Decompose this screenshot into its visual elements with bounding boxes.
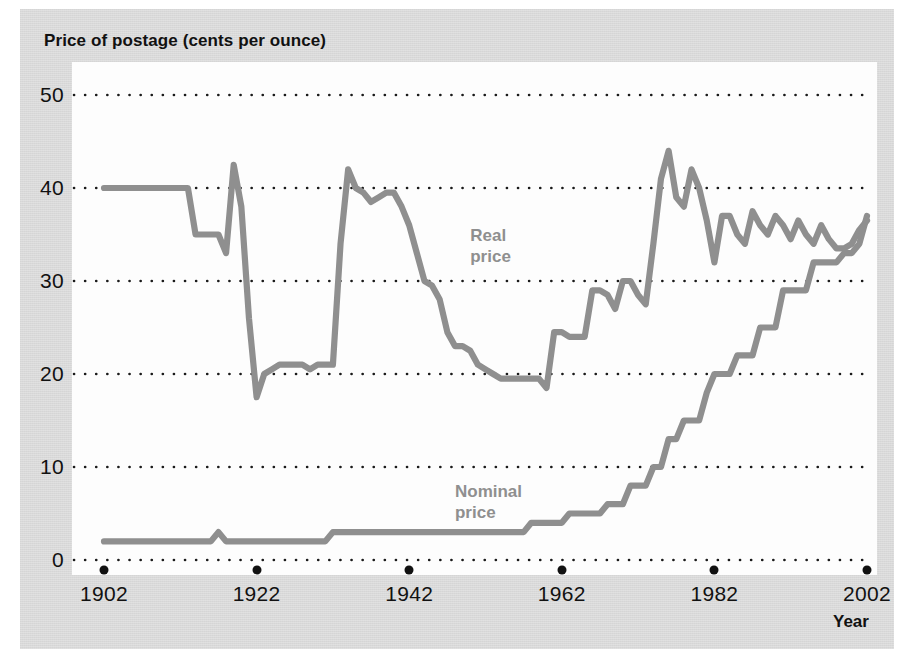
chart-title: Price of postage (cents per ounce) [44, 31, 326, 51]
annotation-line: Nominal [455, 481, 522, 502]
chart-figure: Price of postage (cents per ounce) Realp… [20, 9, 894, 649]
x-axis-title: Year [833, 612, 869, 632]
annotation-line: price [470, 246, 511, 267]
y-tick-label: 30 [20, 269, 64, 293]
y-tick-label: 10 [20, 455, 64, 479]
y-tick-label: 40 [20, 176, 64, 200]
x-tick-label: 1902 [64, 582, 144, 606]
nominal-price-series-label: Nominalprice [455, 481, 522, 524]
x-tick-label: 1922 [217, 582, 297, 606]
x-tick-marker [557, 566, 566, 575]
x-tick-marker [405, 566, 414, 575]
real-price-series-label: Realprice [470, 225, 511, 268]
x-tick-label: 1942 [369, 582, 449, 606]
y-tick-label: 50 [20, 83, 64, 107]
annotation-line: Real [470, 225, 511, 246]
annotation-line: price [455, 502, 522, 523]
x-tick-label: 1982 [674, 582, 754, 606]
x-tick-label: 2002 [827, 582, 907, 606]
x-tick-marker [863, 566, 872, 575]
x-tick-marker [252, 566, 261, 575]
y-tick-label: 0 [20, 548, 64, 572]
y-tick-label: 20 [20, 362, 64, 386]
x-tick-marker [100, 566, 109, 575]
x-tick-label: 1962 [522, 582, 602, 606]
x-tick-marker [710, 566, 719, 575]
